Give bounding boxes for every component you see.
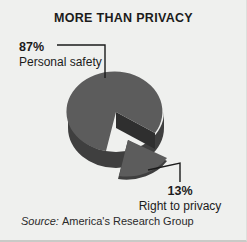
callout-right-to-privacy-label: Right to privacy [118,199,242,214]
source-text: America's Research Group [62,215,194,227]
callout-right-to-privacy-percent: 13% [118,184,242,199]
source-label: Source: [21,215,62,227]
callout-personal-safety-label: Personal safety [19,55,102,70]
callout-personal-safety: 87% Personal safety [19,40,102,70]
source-note: Source: America's Research Group [21,215,194,227]
callout-right-to-privacy: 13% Right to privacy [118,184,242,214]
chart-figure: MORE THAN PRIVACY 87% Personal safety 13… [0,0,247,242]
callout-personal-safety-percent: 87% [19,40,102,55]
